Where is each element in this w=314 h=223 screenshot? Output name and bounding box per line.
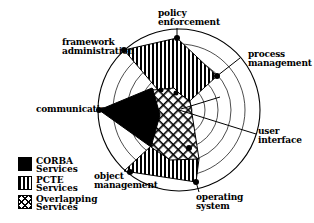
axis-label-line: administration: [62, 47, 134, 56]
legend-item-pcte: PCTE Services: [18, 176, 78, 192]
legend-item-corba: CORBA Services: [18, 157, 78, 173]
axis-label-communication: communication: [36, 105, 112, 114]
axis-label-line: communication: [36, 105, 112, 114]
axis-label-line: management: [248, 59, 312, 68]
legend-label: Services: [36, 184, 78, 192]
crosshatch-swatch-icon: [18, 195, 32, 209]
axis-label-user-interface: user interface: [258, 127, 302, 145]
legend-item-overlapping: Overlapping Services: [18, 195, 98, 211]
axis-label-process-management: process management: [248, 50, 312, 68]
solid-swatch-icon: [18, 157, 32, 171]
legend-label: Services: [36, 165, 78, 173]
axis-label-operating-system: operating system: [196, 193, 243, 211]
axis-label-line: interface: [258, 136, 302, 145]
axis-label-framework-administration: framework administration: [62, 38, 134, 56]
axis-label-line: management: [94, 181, 158, 190]
axis-label-line: system: [196, 202, 243, 211]
axis-label-policy-enforcement: policy enforcement: [158, 9, 220, 27]
axis-label-object-management: object management: [94, 172, 158, 190]
legend-label: Services: [36, 203, 98, 211]
striped-swatch-icon: [18, 176, 32, 190]
axis-label-line: enforcement: [158, 18, 220, 27]
